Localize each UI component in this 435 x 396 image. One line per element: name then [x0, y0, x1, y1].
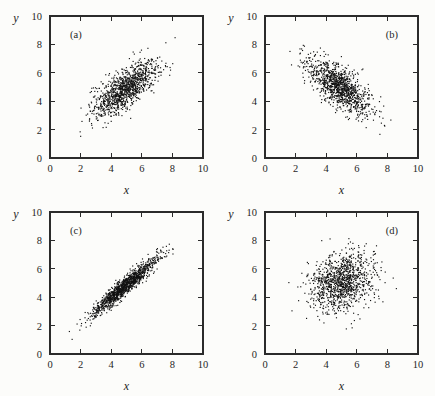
- y-tick-label: 4: [252, 96, 258, 107]
- x-tick-label: 2: [78, 163, 83, 174]
- y-tick-label: 8: [252, 39, 257, 50]
- y-axis-label: y: [227, 207, 234, 221]
- figure-container: 02468100246810xy(a) 02468100246810xy(b) …: [0, 0, 435, 396]
- y-tick-label: 2: [37, 321, 42, 332]
- x-axis-label: x: [123, 379, 130, 393]
- x-tick-label: 0: [47, 359, 52, 370]
- x-tick-label: 0: [47, 163, 52, 174]
- y-tick-label: 4: [37, 96, 43, 107]
- x-tick-label: 0: [262, 359, 267, 370]
- x-tick-label: 6: [139, 163, 144, 174]
- x-tick-label: 10: [413, 359, 424, 370]
- y-axis-label: y: [227, 11, 234, 25]
- x-tick-label: 8: [385, 359, 390, 370]
- scatter-panel-a: 02468100246810xy(a): [0, 0, 217, 198]
- y-tick-label: 0: [252, 153, 257, 164]
- x-tick-label: 4: [324, 163, 330, 174]
- y-tick-label: 0: [37, 153, 42, 164]
- scatter-panel-b: 02468100246810xy(b): [215, 0, 432, 198]
- panel-b-plot: 02468100246810xy(b): [215, 0, 432, 198]
- y-tick-label: 4: [37, 292, 43, 303]
- x-tick-label: 4: [109, 163, 115, 174]
- y-tick-label: 8: [252, 235, 257, 246]
- x-tick-label: 6: [139, 359, 144, 370]
- x-tick-label: 6: [354, 163, 359, 174]
- x-tick-label: 2: [293, 163, 298, 174]
- x-tick-label: 4: [109, 359, 115, 370]
- y-axis-label: y: [12, 11, 19, 25]
- y-tick-label: 6: [37, 68, 42, 79]
- point-cloud: [289, 45, 391, 135]
- point-cloud: [288, 238, 397, 329]
- x-tick-label: 10: [198, 359, 209, 370]
- panel-label: (a): [70, 29, 82, 41]
- y-tick-label: 6: [37, 264, 42, 275]
- y-tick-label: 4: [252, 292, 258, 303]
- y-axis-label: y: [12, 207, 19, 221]
- x-tick-label: 10: [413, 163, 424, 174]
- scatter-panel-d: 02468100246810xy(d): [215, 196, 432, 394]
- y-tick-label: 8: [37, 235, 42, 246]
- panel-a-plot: 02468100246810xy(a): [0, 0, 217, 198]
- y-tick-label: 8: [37, 39, 42, 50]
- panel-label: (d): [386, 225, 399, 237]
- panel-d-plot: 02468100246810xy(d): [215, 196, 432, 394]
- x-axis-label: x: [123, 183, 130, 197]
- x-axis-label: x: [338, 183, 345, 197]
- point-cloud: [69, 244, 174, 340]
- panel-label: (b): [386, 29, 399, 41]
- x-tick-label: 8: [170, 359, 175, 370]
- y-tick-label: 0: [252, 349, 257, 360]
- x-axis-label: x: [338, 379, 345, 393]
- panel-label: (c): [70, 225, 82, 237]
- y-tick-label: 10: [247, 207, 258, 218]
- x-tick-label: 2: [293, 359, 298, 370]
- y-tick-label: 6: [252, 68, 257, 79]
- x-tick-label: 8: [170, 163, 175, 174]
- x-tick-label: 4: [324, 359, 330, 370]
- y-tick-label: 2: [252, 125, 257, 136]
- x-tick-label: 10: [198, 163, 209, 174]
- y-tick-label: 10: [32, 11, 43, 22]
- x-tick-label: 6: [354, 359, 359, 370]
- point-cloud: [80, 37, 176, 137]
- panel-c-plot: 02468100246810xy(c): [0, 196, 217, 394]
- scatter-panel-c: 02468100246810xy(c): [0, 196, 217, 394]
- y-tick-label: 2: [252, 321, 257, 332]
- x-tick-label: 0: [262, 163, 267, 174]
- y-tick-label: 10: [247, 11, 258, 22]
- x-tick-label: 2: [78, 359, 83, 370]
- y-tick-label: 6: [252, 264, 257, 275]
- x-tick-label: 8: [385, 163, 390, 174]
- y-tick-label: 10: [32, 207, 43, 218]
- y-tick-label: 0: [37, 349, 42, 360]
- y-tick-label: 2: [37, 125, 42, 136]
